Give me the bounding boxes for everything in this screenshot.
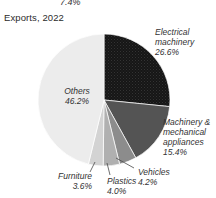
slice-label-pct: 4.0% bbox=[107, 186, 143, 196]
slice-label-text: Electrical machinery bbox=[155, 27, 207, 47]
slice-label-others: Others 46.2% bbox=[56, 86, 98, 106]
slice-label-pct: 3.6% bbox=[54, 181, 92, 191]
slice-label-furniture: Furniture 3.6% bbox=[54, 171, 92, 191]
slice-label-pct: 46.2% bbox=[56, 96, 98, 106]
export-pie-chart-figure: 7.4% Exports, 2022 Electrical machinery … bbox=[0, 0, 216, 198]
slice-label-text: Vehicles bbox=[138, 167, 174, 177]
slice-label-electrical-machinery: Electrical machinery 26.6% bbox=[155, 27, 207, 57]
slice-label-pct: 15.4% bbox=[163, 147, 216, 157]
slice-label-text: Plastics bbox=[107, 176, 143, 186]
slice-label-text: Machinery & mechanical appliances bbox=[163, 117, 216, 147]
slice-label-plastics: Plastics 4.0% bbox=[107, 176, 143, 196]
slice-label-text: Others bbox=[56, 86, 98, 96]
slice-label-text: Furniture bbox=[54, 171, 92, 181]
slice-label-pct: 4.2% bbox=[138, 177, 174, 187]
slice-label-vehicles: Vehicles 4.2% bbox=[138, 167, 174, 187]
slice-label-machinery-mechanical-appliances: Machinery & mechanical appliances 15.4% bbox=[163, 117, 216, 157]
slice-label-pct: 26.6% bbox=[155, 47, 207, 57]
